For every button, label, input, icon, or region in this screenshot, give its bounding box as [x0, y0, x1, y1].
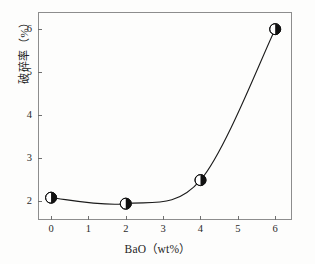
plot-canvas — [38, 12, 292, 220]
y-tick-label: 3 — [18, 153, 32, 164]
x-tick-mark — [163, 216, 164, 220]
x-tick-mark — [126, 216, 127, 220]
y-axis-title: 破碎率（%） — [15, 0, 31, 110]
x-tick-mark — [238, 216, 239, 220]
x-tick-label: 3 — [161, 224, 166, 235]
x-tick-mark — [200, 216, 201, 220]
x-tick-mark — [51, 216, 52, 220]
data-series-group — [51, 29, 275, 204]
chart-screenshot: 0123456 23456 BaO（wt%） 破碎率（%） — [0, 0, 315, 264]
data-point-marker — [195, 175, 206, 186]
x-tick-label: 4 — [198, 224, 203, 235]
y-tick-label: 4 — [18, 110, 32, 121]
data-point-marker — [270, 24, 281, 35]
x-tick-label: 5 — [235, 224, 240, 235]
y-tick-mark — [38, 115, 42, 116]
x-tick-label: 0 — [48, 224, 53, 235]
x-tick-mark — [88, 216, 89, 220]
data-marker-group — [46, 24, 281, 210]
y-tick-mark — [38, 29, 42, 30]
x-tick-mark — [275, 216, 276, 220]
y-tick-mark — [38, 158, 42, 159]
data-point-marker — [120, 198, 131, 209]
y-tick-label: 2 — [18, 195, 32, 206]
series-line — [51, 29, 275, 204]
x-tick-label: 6 — [273, 224, 278, 235]
x-tick-label: 2 — [123, 224, 128, 235]
y-tick-mark — [38, 72, 42, 73]
x-tick-label: 1 — [86, 224, 91, 235]
y-tick-mark — [38, 201, 42, 202]
data-point-marker — [46, 192, 57, 203]
x-axis-title: BaO（wt%） — [0, 240, 315, 256]
